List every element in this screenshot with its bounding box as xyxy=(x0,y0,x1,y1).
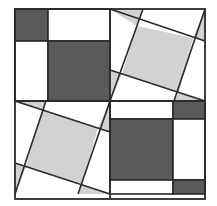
quadrant-top-right xyxy=(110,9,205,101)
dark-region xyxy=(173,101,205,119)
white-region xyxy=(173,119,205,180)
dark-region xyxy=(15,9,48,41)
white-region xyxy=(110,101,173,119)
diagram-canvas xyxy=(0,0,217,206)
dark-region xyxy=(48,41,110,101)
white-region xyxy=(15,41,48,101)
light-region xyxy=(26,110,98,184)
white-region xyxy=(48,9,110,41)
quadrant-bottom-right xyxy=(110,101,205,194)
quadrant-bottom-left xyxy=(15,101,110,194)
quadrant-top-left xyxy=(15,9,110,101)
tiling-diagram xyxy=(0,0,217,206)
dark-region xyxy=(110,119,173,180)
dark-region xyxy=(173,180,205,194)
white-region xyxy=(110,180,173,194)
